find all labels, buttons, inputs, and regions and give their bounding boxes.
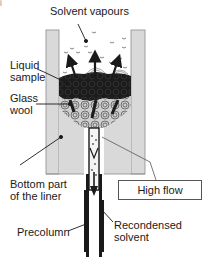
label-solvent-vapours: Solvent vapours xyxy=(50,5,129,17)
liner-diagram: j xyxy=(0,0,211,257)
label-bottom-liner-line2: of the liner xyxy=(10,190,61,202)
label-liquid-sample-line2: sample xyxy=(10,71,45,83)
label-liquid-sample-line1: Liquid xyxy=(10,59,39,71)
label-bottom-liner-line1: Bottom part xyxy=(10,178,67,190)
high-flow-box: High flow xyxy=(118,180,202,200)
label-precolumn: Precolumn xyxy=(17,226,70,238)
label-glass-wool-line2: wool xyxy=(10,104,33,116)
label-recondensed-line1: Recondensed xyxy=(114,219,182,231)
label-recondensed-line2: solvent xyxy=(114,231,149,243)
flow-arrow-tube xyxy=(89,128,99,196)
label-glass-wool-line1: Glass xyxy=(10,92,38,104)
